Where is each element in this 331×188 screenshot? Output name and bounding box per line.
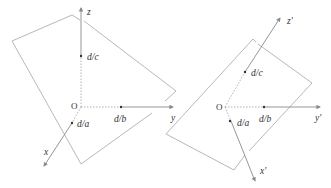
right-y-intercept	[263, 106, 265, 108]
left-dc-label: d/c	[87, 52, 99, 62]
right-diagram: O z' y' x' d/c d/b d/a	[166, 16, 322, 181]
right-plane	[249, 44, 312, 151]
left-x-intercept	[71, 122, 73, 124]
left-diagram: O z y x d/c d/b d/a	[12, 7, 176, 166]
right-origin-label: O	[216, 102, 223, 112]
right-x-dashed	[225, 107, 231, 121]
left-y-intercept	[120, 106, 122, 108]
left-origin-label: O	[71, 101, 78, 111]
right-z-intercept	[244, 71, 246, 73]
diagram-canvas: O z y x d/c d/b d/a O z' y' x' d/c d/b d…	[0, 0, 331, 188]
left-y-label: y	[170, 113, 176, 123]
right-x-label: x'	[259, 166, 267, 176]
left-plane-lower	[12, 15, 152, 164]
right-x-intercept	[229, 120, 231, 122]
right-dc-label: d/c	[251, 68, 263, 78]
left-da-label: d/a	[77, 119, 89, 129]
right-y-label: y'	[314, 113, 322, 123]
right-z-axis	[245, 18, 280, 72]
left-z-label: z	[86, 7, 91, 17]
right-z-dashed	[225, 72, 245, 107]
left-x-axis	[44, 123, 72, 166]
right-db-label: d/b	[259, 114, 271, 124]
left-z-intercept	[80, 55, 82, 57]
right-x-axis	[231, 121, 255, 181]
right-da-label: d/a	[237, 118, 249, 128]
left-x-label: x	[43, 147, 49, 157]
right-z-label: z'	[286, 16, 294, 26]
left-db-label: d/b	[114, 114, 126, 124]
